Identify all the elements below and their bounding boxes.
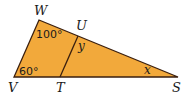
vertex-label-u: U <box>76 18 88 33</box>
vertex-label-s: S <box>172 80 181 95</box>
triangle-diagram: W U V T S 100° 60° y x <box>0 0 189 97</box>
angle-s-label: x <box>144 63 151 77</box>
angle-v-label: 60° <box>19 65 39 78</box>
vertex-label-t: T <box>56 80 66 95</box>
angle-w-label: 100° <box>36 28 63 41</box>
vertex-label-v: V <box>8 80 19 95</box>
vertex-label-w: W <box>34 3 49 18</box>
angle-u-label: y <box>77 39 85 53</box>
